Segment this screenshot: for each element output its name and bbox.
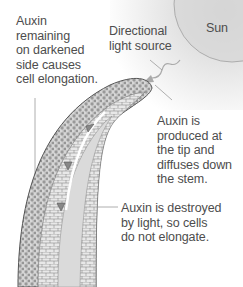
stem-cells [38,92,145,287]
label-auxin-destroyed: Auxin is destroyed by light, so cells do… [121,201,221,245]
label-auxin-tip: Auxin is produced at the tip and diffuse… [157,114,232,187]
label-auxin-dark-side: Auxin remaining on darkened side causes … [16,14,98,87]
label-sun: Sun [206,21,228,36]
label-light-source: Directional light source [109,24,172,53]
